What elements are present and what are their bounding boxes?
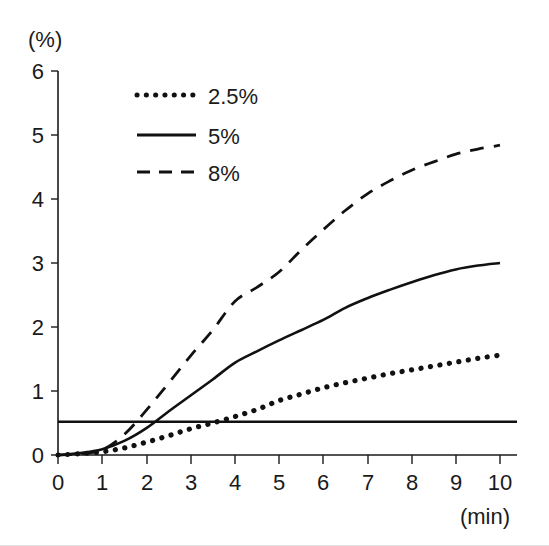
y-tick-label: 6 [32, 59, 44, 84]
y-tick-label: 2 [32, 315, 44, 340]
legend-label-5-percent: 5% [208, 124, 240, 149]
x-tick-label: 7 [362, 470, 374, 495]
x-tick-label: 0 [52, 470, 64, 495]
x-tick-label: 1 [96, 470, 108, 495]
x-tick-label: 6 [317, 470, 329, 495]
y-tick-label: 3 [32, 251, 44, 276]
x-tick-label: 4 [229, 470, 241, 495]
x-tick-label: 2 [141, 470, 153, 495]
y-axis-tick-labels: 6 5 4 3 2 1 0 [32, 59, 44, 468]
x-axis-ticks [58, 455, 500, 464]
y-tick-label: 1 [32, 379, 44, 404]
x-tick-label: 8 [406, 470, 418, 495]
series-line-8-percent [58, 145, 500, 455]
line-chart-plot: (%) 6 5 4 3 2 1 0 [0, 0, 549, 546]
y-axis-ticks [51, 71, 58, 455]
x-tick-label: 3 [185, 470, 197, 495]
x-axis-tick-labels: 0 1 2 3 4 5 6 7 8 9 10 [52, 470, 512, 495]
x-tick-label: 9 [450, 470, 462, 495]
chart-figure: (%) 6 5 4 3 2 1 0 [0, 0, 549, 546]
chart-legend: 2.5% 5% 8% [137, 84, 258, 186]
y-tick-label: 4 [32, 187, 44, 212]
series-line-5-percent [58, 263, 500, 455]
x-tick-label: 5 [273, 470, 285, 495]
legend-label-8-percent: 8% [208, 161, 240, 186]
x-axis-unit-label: (min) [460, 504, 510, 529]
y-tick-label: 0 [32, 443, 44, 468]
y-axis-unit-label: (%) [28, 27, 62, 52]
y-tick-label: 5 [32, 123, 44, 148]
x-tick-label: 10 [488, 470, 512, 495]
legend-label-2-5-percent: 2.5% [208, 84, 258, 109]
